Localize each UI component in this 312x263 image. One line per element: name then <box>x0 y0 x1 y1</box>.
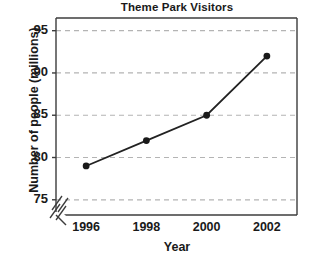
x-tick-label: 1996 <box>56 220 116 234</box>
data-point <box>263 53 270 60</box>
y-tick-label: 95 <box>14 22 48 37</box>
plot-background <box>56 18 297 215</box>
y-tick-label: 80 <box>14 149 48 164</box>
x-tick-label: 2002 <box>237 220 297 234</box>
line-chart: Theme Park Visitors Number of people (mi… <box>0 0 312 263</box>
y-tick-label: 85 <box>14 106 48 121</box>
x-tick-label: 1998 <box>116 220 176 234</box>
x-tick-label: 2000 <box>177 220 237 234</box>
data-point <box>203 112 210 119</box>
y-tick-label: 90 <box>14 64 48 79</box>
data-point <box>83 163 90 170</box>
y-tick-label: 75 <box>14 191 48 206</box>
data-point <box>143 137 150 144</box>
